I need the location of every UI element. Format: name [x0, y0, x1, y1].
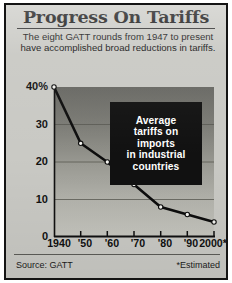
x-tick-label-2000: 2000*	[199, 237, 227, 249]
x-tick-label-80: '80	[158, 237, 172, 249]
y-tick-label-10: 10	[14, 193, 48, 205]
callout-text: Average tariffs on imports in industrial…	[126, 115, 185, 173]
chart-footer: Source: GATT *Estimated	[16, 260, 220, 274]
x-tick-label-60: '60	[105, 237, 119, 249]
footer-divider	[14, 254, 220, 255]
y-tick-label-40: 40%	[14, 80, 48, 92]
x-axis-labels: 1940 '50 '60 '70 '80 '90 2000*	[6, 237, 228, 251]
y-tick-label-20: 20	[14, 155, 48, 167]
plot-area: Average tariffs on imports in industrial…	[6, 5, 228, 280]
source-label: Source: GATT	[16, 260, 73, 270]
x-tick-label-50: '50	[78, 237, 92, 249]
y-tick-label-30: 30	[14, 118, 48, 130]
x-tick-label-70: '70	[131, 237, 145, 249]
x-tick-label-90: '90	[184, 237, 198, 249]
callout-box: Average tariffs on imports in industrial…	[110, 102, 202, 185]
x-tick-label-1940: 1940	[47, 237, 71, 249]
estimated-note: *Estimated	[176, 260, 220, 270]
chart-card: Progress On Tariffs The eight GATT round…	[4, 3, 228, 280]
